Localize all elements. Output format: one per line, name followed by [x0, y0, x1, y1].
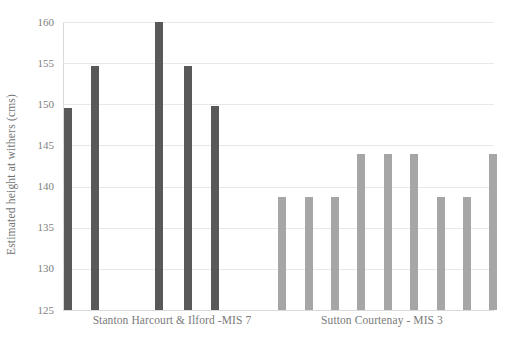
- x-axis-category-labels: Stanton Harcourt & Ilford -MIS 7 Sutton …: [0, 313, 506, 343]
- bar-g1-7: [463, 197, 471, 310]
- bar-g1-6: [437, 197, 445, 310]
- bar-g1-0: [278, 197, 286, 310]
- y-tick-label-155: 155: [38, 58, 55, 69]
- category-label-stanton-harcourt-ilford-mis-7: Stanton Harcourt & Ilford -MIS 7: [62, 313, 282, 327]
- gridline-125: [63, 310, 494, 311]
- plot-area: [63, 22, 494, 310]
- bar-chart: Estimated height at withers (cms) 125130…: [0, 0, 506, 349]
- bar-g1-1: [305, 197, 313, 310]
- bar-g1-5: [410, 154, 418, 310]
- bar-g1-3: [357, 154, 365, 310]
- y-tick-label-150: 150: [38, 99, 55, 110]
- y-tick-label-135: 135: [38, 222, 55, 233]
- y-tick-label-140: 140: [38, 181, 55, 192]
- bar-g0-1: [91, 66, 99, 310]
- y-tick-label-145: 145: [38, 140, 55, 151]
- bar-g1-2: [331, 197, 339, 310]
- y-axis-tick-labels: 125130135140145150155160: [0, 0, 63, 349]
- y-tick-label-160: 160: [38, 17, 55, 28]
- category-label-sutton-courtenay-mis-3: Sutton Courtenay - MIS 3: [270, 313, 494, 327]
- bar-g0-2: [155, 22, 163, 310]
- bar-g0-0: [64, 108, 72, 310]
- bar-g1-8: [489, 154, 497, 310]
- bar-g0-3: [184, 66, 192, 310]
- bar-g0-4: [211, 106, 219, 310]
- bar-g1-4: [384, 154, 392, 310]
- y-tick-label-130: 130: [38, 263, 55, 274]
- bars-layer: [63, 22, 494, 310]
